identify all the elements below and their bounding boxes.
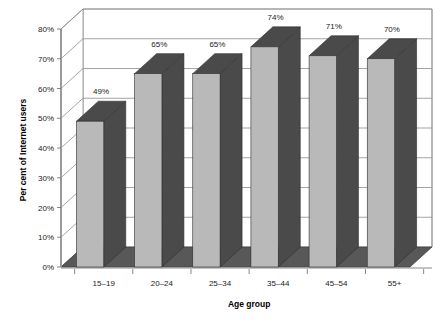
y-tick-labels: 0%10%20%30%40%50%60%70%80% [38,25,54,272]
bar-front-face [367,59,394,267]
bar-column [367,39,416,267]
x-tick-label: 15–19 [93,279,116,288]
x-tick-label: 45–54 [325,279,348,288]
bar-side-face [162,54,184,267]
y-tick-label: 60% [38,85,54,94]
bar-front-face [309,56,336,267]
y-tick-label: 40% [38,144,54,153]
y-tick-label: 80% [38,25,54,34]
x-tick-label: 55+ [388,279,402,288]
bar-front-face [76,121,103,267]
bar-side-face [104,101,126,267]
bar-chart-internet-users-by-age: 0%10%20%30%40%50%60%70%80% 49%65%65%74%7… [0,0,433,321]
bar-value-label: 65% [209,40,225,49]
bar-side-face [220,54,242,267]
x-tick-label: 35–44 [267,279,290,288]
bar-column [135,54,184,267]
bar-value-label: 71% [326,22,342,31]
y-tick-label: 70% [38,55,54,64]
chart-canvas: 0%10%20%30%40%50%60%70%80% 49%65%65%74%7… [0,0,433,321]
y-tick-label: 10% [38,233,54,242]
bar-front-face [251,47,278,267]
x-tick-label: 25–34 [209,279,232,288]
x-tick-label: 20–24 [151,279,174,288]
bar-value-label: 74% [268,13,284,22]
bar-side-face [336,36,358,267]
cropped-caption-strip [0,312,433,321]
bar-column [193,54,242,267]
y-tick-label: 0% [42,263,54,272]
y-tick-label: 20% [38,204,54,213]
bar-front-face [135,74,162,267]
bar-value-label: 70% [384,25,400,34]
bar-value-label: 49% [93,87,109,96]
bar-side-face [278,27,300,267]
bar-value-label: 65% [151,40,167,49]
bar-column [251,27,300,267]
bar-column [309,36,358,267]
bar-column [76,101,125,267]
y-tick-label: 30% [38,174,54,183]
bar-front-face [193,74,220,267]
y-axis-title: Per cent of Internet users [18,98,28,201]
x-axis-title: Age group [228,299,271,309]
bar-side-face [395,39,417,267]
y-tick-label: 50% [38,114,54,123]
